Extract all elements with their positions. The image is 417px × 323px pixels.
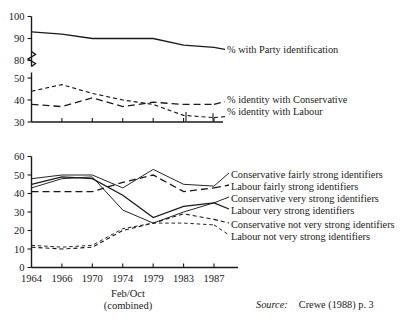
upper-y-label-80: 80 [14,55,25,66]
lower-line-5 [32,223,215,247]
lower-y-label-40: 40 [14,188,25,199]
legend-item-labour-very-strong: Labour very strong identifiers [231,205,354,216]
upper-y-label-30: 30 [14,117,25,128]
legend-item-identity-conservative: % identity with Conservative [227,94,347,105]
lower-line-2 [32,177,215,223]
source-value: Crewe (1988) p. 3 [299,299,374,310]
x-axis-note-combined: (combined) [88,300,168,311]
legend-item-conservative-fairly-strong: Conservative fairly strong identifiers [231,169,383,180]
x-axis-note-feb-oct: Feb/Oct [88,288,168,299]
lower-chart-axes [28,157,239,268]
upper-legend-leader-lines [186,47,225,121]
lower-y-label-60: 60 [14,151,25,162]
figure-container: 1009080504030 6050403020100 196419661970… [0,0,417,323]
x-label-1974: 1974 [112,273,134,284]
x-tick-labels: 1964196619701974197919831987 [21,273,225,284]
legend-item-conservative-very-strong: Conservative very strong identifiers [231,193,379,204]
upper-line-1 [32,98,215,107]
lower-y-label-20: 20 [14,225,25,236]
source-note: Source: Crewe (1988) p. 3 [256,299,374,310]
upper-y-tick-labels: 1009080504030 [9,11,25,128]
lower-y-label-30: 30 [14,207,25,218]
upper-y-label-100: 100 [9,11,25,22]
lower-y-label-0: 0 [19,262,24,273]
chart-canvas: 1009080504030 6050403020100 196419661970… [0,0,417,323]
legend-item-identity-labour: % identity with Labour [227,106,323,117]
legend-item-labour-not-very-strong: Labour not very strong identifiers [231,231,370,242]
upper-y-label-40: 40 [14,95,25,106]
upper-y-label-90: 90 [14,33,25,44]
lower-y-label-50: 50 [14,170,25,181]
legend-item-labour-fairly-strong: Labour fairly strong identifiers [231,181,358,192]
upper-y-label-50: 50 [14,73,25,84]
lower-line-0 [32,169,215,188]
legend-item-conservative-not-very-strong: Conservative not very strong identifiers [231,219,395,230]
lower-chart-series [32,169,215,249]
upper-chart-series [32,32,215,118]
lower-legend-leader-lines [214,173,229,235]
legend-item-party-identification: % with Party identification [227,44,338,55]
lower-y-label-10: 10 [14,244,25,255]
lower-line-4 [32,214,215,249]
upper-line-0 [32,32,215,47]
x-label-1970: 1970 [82,273,103,284]
lower-y-tick-labels: 6050403020100 [14,151,25,273]
source-label: Source: [256,299,288,310]
x-label-1966: 1966 [51,273,72,284]
x-label-1987: 1987 [204,273,225,284]
x-label-1979: 1979 [143,273,164,284]
x-label-1983: 1983 [173,273,194,284]
x-label-1964: 1964 [21,273,43,284]
upper-line-2 [32,85,215,118]
